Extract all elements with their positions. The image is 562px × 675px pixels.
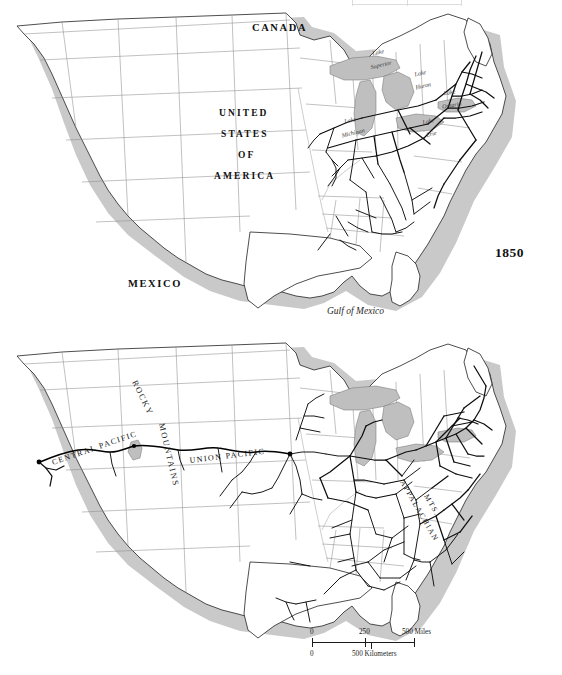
- label-canada-1850: CANADA: [252, 22, 307, 34]
- label-america-1850: AMERICA: [214, 171, 275, 182]
- scale-bar: 0 250 500 Miles 0 500 Kilometers: [310, 628, 450, 670]
- label-states-1850: STATES: [221, 129, 269, 140]
- scale-miles-0: 0: [310, 628, 314, 636]
- scale-tick-km-mid: [371, 642, 372, 649]
- promontory-point-marker: [132, 444, 136, 448]
- map-panel-1870: ROCKY MOUNTAINS APPALACHIAN MTS. CENTRAL…: [0, 330, 562, 675]
- scale-km-0: 0: [310, 650, 314, 658]
- scale-km-500: 500 Kilometers: [352, 650, 397, 658]
- figure-root: CANADA MEXICO UNITED STATES OF AMERICA L…: [0, 0, 562, 675]
- year-label-1850: 1850: [495, 245, 524, 260]
- label-lake-ontario: Lake Ontario: [429, 82, 463, 118]
- scale-tick-mid: [365, 638, 366, 647]
- label-mexico-1850: MEXICO: [128, 278, 182, 290]
- scale-bar-rule: [312, 642, 415, 643]
- map-panel-1850: CANADA MEXICO UNITED STATES OF AMERICA L…: [0, 0, 562, 340]
- scale-tick-right: [414, 638, 415, 647]
- scale-tick-left: [312, 638, 313, 647]
- map-1850-graphic: [0, 0, 562, 340]
- map-1870-graphic: ROCKY MOUNTAINS APPALACHIAN MTS. CENTRAL…: [0, 330, 562, 675]
- label-of-1850: OF: [238, 150, 255, 161]
- label-gulf-of-mexico-1850: Gulf of Mexico: [327, 306, 384, 317]
- scale-miles-250: 250: [359, 628, 370, 636]
- label-united-1850: UNITED: [219, 108, 269, 119]
- scale-miles-500: 500 Miles: [402, 628, 431, 636]
